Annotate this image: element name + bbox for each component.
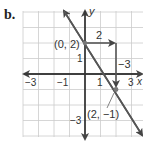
x-tick: 1 (97, 77, 103, 88)
rise-label: −3 (118, 58, 131, 70)
x-tick: 3 (128, 77, 134, 88)
x-axis-label: x (137, 76, 142, 87)
x-tick: −3 (25, 77, 36, 88)
y-tick: 1 (77, 53, 83, 64)
y-axis-label: y (89, 5, 95, 17)
point-label: (2, −1) (87, 108, 119, 120)
y-tick: −3 (70, 115, 81, 126)
x-tick: −1 (57, 77, 68, 88)
run-label: 2 (96, 29, 102, 41)
point-label: (0, 2) (54, 38, 80, 50)
